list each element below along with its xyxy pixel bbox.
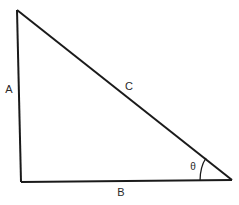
side-a-label: A [5, 84, 12, 95]
side-b-label: B [117, 187, 124, 198]
side-c-label: C [125, 81, 133, 92]
side-c-line [17, 10, 232, 180]
angle-theta-arc [200, 158, 206, 181]
angle-theta-label: θ [190, 162, 196, 172]
triangle-diagram [0, 0, 239, 205]
side-a-line [17, 10, 21, 182]
